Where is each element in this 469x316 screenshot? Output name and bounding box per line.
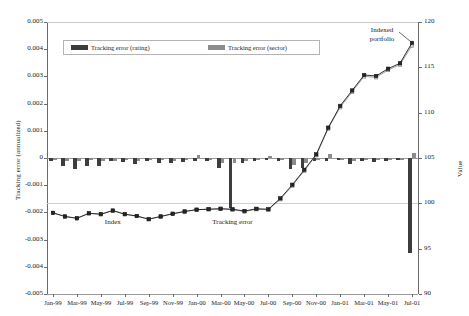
legend-swatch-sector xyxy=(208,45,225,50)
legend-label-sector: Tracking error (sector) xyxy=(228,44,287,51)
data-point-marker xyxy=(339,104,342,107)
annotation-tracking-error: Tracking error xyxy=(199,218,267,226)
line-path-indexed-portfolio xyxy=(53,46,412,220)
data-point-marker xyxy=(135,214,138,217)
chart-legend: Tracking error (rating) Tracking error (… xyxy=(63,40,320,55)
data-point-marker xyxy=(219,207,222,210)
data-point-marker xyxy=(99,213,102,216)
data-point-marker xyxy=(111,209,114,212)
legend-item-1: Tracking error (sector) xyxy=(208,44,287,51)
data-point-marker xyxy=(51,211,54,214)
data-point-marker xyxy=(362,73,365,76)
data-point-marker xyxy=(159,215,162,218)
data-point-marker xyxy=(75,217,78,220)
data-point-marker xyxy=(243,209,246,212)
data-point-marker xyxy=(386,67,389,70)
data-point-marker xyxy=(123,213,126,216)
data-point-marker xyxy=(195,208,198,211)
legend-swatch-rating xyxy=(71,45,88,50)
data-point-marker xyxy=(291,183,294,186)
data-point-marker xyxy=(267,208,270,211)
line-path-index xyxy=(53,43,412,219)
data-point-marker xyxy=(87,212,90,215)
data-point-marker xyxy=(147,218,150,221)
annotation-indexed-portfolio-line1: Indexed xyxy=(371,26,394,34)
data-point-marker xyxy=(63,215,66,218)
annotation-indexed-portfolio: Indexedportfolio xyxy=(356,26,408,44)
data-point-marker xyxy=(279,197,282,200)
data-point-marker xyxy=(171,212,174,215)
data-point-marker xyxy=(374,74,377,77)
data-point-marker xyxy=(350,89,353,92)
data-point-marker xyxy=(327,126,330,129)
data-point-marker xyxy=(255,207,258,210)
data-point-marker xyxy=(398,62,401,65)
chart-container: Tracking error (annualized) Value 0.0050… xyxy=(0,0,469,316)
data-point-marker xyxy=(231,208,234,211)
data-point-marker xyxy=(303,168,306,171)
legend-label-rating: Tracking error (rating) xyxy=(91,44,150,51)
legend-item-0: Tracking error (rating) xyxy=(71,44,191,51)
data-point-marker xyxy=(315,153,318,156)
data-point-marker xyxy=(207,208,210,211)
annotation-indexed-portfolio-line2: portfolio xyxy=(370,35,395,43)
data-point-marker xyxy=(183,210,186,213)
annotation-index: Index xyxy=(89,218,137,226)
